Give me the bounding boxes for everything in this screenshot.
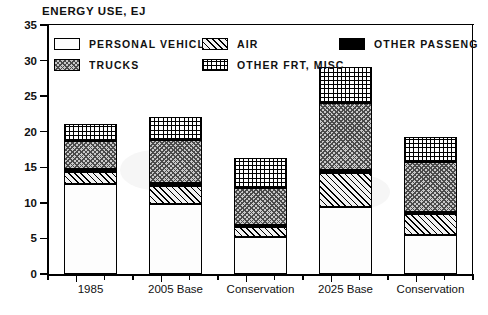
legend-label-misc: OTHER FRT, MISC [237, 59, 345, 71]
x-axis-tick [472, 275, 473, 280]
x-axis-tick [132, 275, 133, 280]
chart-title: ENERGY USE, EJ [42, 5, 146, 17]
y-axis-tick [40, 167, 48, 168]
legend-item-personal[interactable]: PERSONAL VEHICLES [54, 38, 221, 50]
y-axis-tick [40, 24, 48, 25]
legend-swatch-otherpass-icon [339, 38, 365, 50]
y-axis-label: 5 [1, 232, 37, 244]
bar-segment-personal [404, 235, 457, 274]
x-axis-tick [444, 275, 445, 280]
bar-1 [64, 124, 117, 274]
legend-swatch-personal-icon [54, 38, 80, 50]
bar-segment-personal [319, 207, 372, 274]
bar-segment-air [319, 173, 372, 207]
y-axis-label: 20 [1, 126, 37, 138]
bar-segment-trucks [319, 103, 372, 170]
bar-segment-otherpass [404, 212, 457, 214]
legend-item-misc[interactable]: OTHER FRT, MISC [202, 59, 345, 71]
bar-segment-personal [64, 184, 117, 274]
bar-segment-personal [234, 237, 287, 274]
bar-segment-trucks [64, 141, 117, 169]
x-axis-tick [246, 275, 247, 282]
bar-segment-misc [234, 158, 287, 188]
legend-item-otherpass[interactable]: OTHER PASSENGER [339, 38, 478, 50]
x-axis-line [47, 274, 474, 276]
legend-label-otherpass: OTHER PASSENGER [374, 38, 478, 50]
x-axis-tick [217, 275, 218, 280]
y-axis-label: 0 [1, 268, 37, 280]
x-axis-label: Conservation [397, 283, 465, 295]
x-axis-tick [76, 275, 77, 282]
x-axis-label: Conservation [227, 283, 295, 295]
y-axis-tick [40, 238, 48, 239]
bar-segment-otherpass [64, 169, 117, 172]
y-axis-label: 15 [1, 161, 37, 173]
bar-segment-otherpass [234, 225, 287, 227]
bar-segment-otherpass [319, 170, 372, 173]
x-axis-tick [416, 275, 417, 282]
bar-segment-trucks [234, 188, 287, 225]
bar-5 [404, 137, 457, 274]
legend-label-air: AIR [237, 38, 258, 50]
y-axis-tick [40, 131, 48, 132]
legend-swatch-misc-icon [202, 59, 228, 71]
legend-swatch-trucks-icon [54, 59, 80, 71]
x-axis-tick [359, 275, 360, 280]
x-axis-label: 2005 Base [148, 283, 203, 295]
bar-segment-otherpass [149, 183, 202, 186]
y-axis-label: 30 [1, 55, 37, 67]
y-axis-tick [40, 60, 48, 61]
x-axis-tick [302, 275, 303, 280]
bar-segment-misc [404, 137, 457, 161]
y-axis-label: 35 [1, 19, 37, 31]
x-axis-label: 2025 Base [318, 283, 373, 295]
y-axis-label: 10 [1, 197, 37, 209]
legend-label-trucks: TRUCKS [89, 59, 139, 71]
x-axis-tick [387, 275, 388, 280]
legend-item-trucks[interactable]: TRUCKS [54, 59, 139, 71]
bar-segment-air [149, 186, 202, 204]
bar-4 [319, 67, 372, 274]
bar-segment-air [234, 227, 287, 237]
x-axis-tick [104, 275, 105, 280]
x-axis-tick [161, 275, 162, 282]
bar-segment-air [404, 214, 457, 235]
legend-item-air[interactable]: AIR [202, 38, 258, 50]
x-axis-tick [47, 275, 48, 280]
x-axis-tick [274, 275, 275, 280]
x-axis-tick [331, 275, 332, 282]
bar-segment-trucks [149, 140, 202, 183]
bar-3 [234, 158, 287, 274]
x-axis-label: 1985 [78, 283, 104, 295]
y-axis-tick [40, 95, 48, 96]
bar-2 [149, 117, 202, 274]
bar-segment-air [64, 172, 117, 184]
bar-segment-trucks [404, 162, 457, 213]
x-axis-tick [189, 275, 190, 280]
bar-segment-personal [149, 204, 202, 274]
legend-swatch-air-icon [202, 38, 228, 50]
y-axis-label: 25 [1, 90, 37, 102]
chart-legend: PERSONAL VEHICLESAIROTHER PASSENGERTRUCK… [54, 38, 464, 80]
bar-segment-misc [64, 124, 117, 141]
chart-root: ENERGY USE, EJ 05101520253035 19852005 B… [0, 0, 488, 315]
y-axis-tick [40, 202, 48, 203]
bar-segment-misc [149, 117, 202, 140]
